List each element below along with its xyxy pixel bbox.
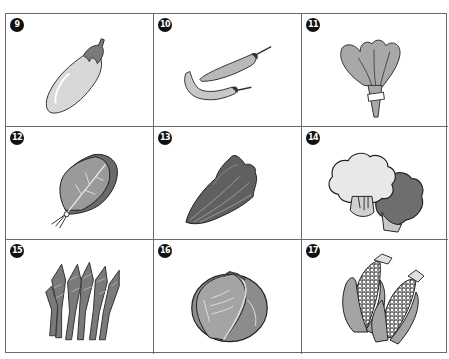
cell-greens-bunch: 15 [6, 240, 154, 354]
cell-cauliflower-broccoli: 14 [302, 127, 448, 240]
cell-chili-peppers: 10 [154, 14, 302, 127]
spinach-icon [6, 127, 153, 239]
cell-spinach: 12 [6, 127, 154, 240]
cell-lettuce: 13 [154, 127, 302, 240]
lettuce-icon [154, 127, 301, 239]
greens-bunch-icon [6, 240, 153, 354]
cell-eggplant: 9 [6, 14, 154, 127]
eggplant-icon [6, 14, 153, 126]
cell-cabbage: 16 [154, 240, 302, 354]
cauliflower-broccoli-icon [302, 127, 448, 239]
chili-peppers-icon [154, 14, 301, 126]
leafy-greens-icon [302, 14, 448, 126]
vegetable-picture-grid: 9 10 11 12 [5, 13, 447, 353]
cell-corn: 17 [302, 240, 448, 354]
cell-leafy-greens: 11 [302, 14, 448, 127]
cabbage-icon [154, 240, 301, 354]
corn-icon [302, 240, 448, 354]
